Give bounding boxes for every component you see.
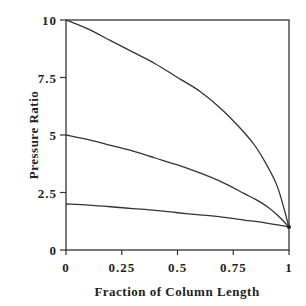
- plot-frame: [66, 20, 289, 250]
- y-tick-label: 5: [50, 128, 58, 143]
- y-axis-label: Pressure Ratio: [26, 91, 41, 179]
- x-axis-label: Fraction of Column Length: [94, 284, 260, 299]
- x-tick-label: 0.75: [220, 260, 247, 275]
- data-series: [66, 20, 291, 229]
- y-tick-label: 0: [50, 243, 58, 258]
- series-line-2: [66, 204, 289, 227]
- x-tick-label: 1: [285, 260, 293, 275]
- pressure-ratio-chart: 02.557.51000.250.50.751 Fraction of Colu…: [0, 0, 306, 306]
- plot-border: [66, 20, 289, 250]
- y-tick-label: 10: [42, 13, 57, 28]
- x-tick-label: 0.5: [168, 260, 187, 275]
- convergence-point: [287, 225, 291, 229]
- y-tick-label: 7.5: [38, 71, 57, 86]
- y-tick-label: 2.5: [38, 186, 57, 201]
- x-tick-label: 0: [62, 260, 70, 275]
- x-tick-label: 0.25: [108, 260, 135, 275]
- series-line-0: [66, 20, 289, 227]
